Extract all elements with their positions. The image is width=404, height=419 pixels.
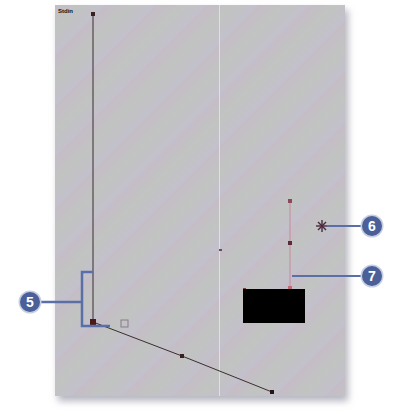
anchor-point-end[interactable] xyxy=(270,390,274,394)
callout-6-number: 6 xyxy=(368,218,376,234)
callout-5-number: 5 xyxy=(26,294,34,310)
callout-5-bracket xyxy=(82,272,110,326)
star-point-icon[interactable] xyxy=(316,220,328,232)
handle-point-middle[interactable] xyxy=(288,241,292,245)
anchor-point-middle[interactable] xyxy=(180,354,184,358)
callout-5: 5 xyxy=(20,292,40,312)
anchor-point-corner[interactable] xyxy=(90,319,96,325)
callout-7: 7 xyxy=(362,266,382,286)
handle-point-top[interactable] xyxy=(288,199,292,203)
shapes-overlay xyxy=(0,0,404,419)
small-square-marker xyxy=(121,320,128,327)
anchor-point-top[interactable] xyxy=(91,12,95,16)
callout-7-number: 7 xyxy=(368,268,376,284)
black-rectangle-shape[interactable] xyxy=(243,289,305,323)
main-path-line[interactable] xyxy=(93,14,272,392)
callout-6: 6 xyxy=(362,216,382,236)
center-point xyxy=(219,249,222,251)
